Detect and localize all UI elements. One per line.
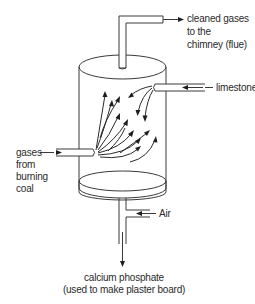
scrubber-diagram: cleaned gases to the chimney (flue) lime…: [0, 0, 255, 304]
product-outlet-pipe: [119, 198, 150, 244]
limestone-spray-arrows: [128, 86, 153, 122]
label-gases-line1: gases: [16, 147, 42, 158]
flue-pipe: [119, 16, 163, 69]
limestone-inlet-pipe: [154, 84, 214, 91]
label-product-line1: calcium phosphate: [84, 272, 165, 283]
air-inlet-arrow: [136, 211, 156, 216]
label-air: Air: [159, 208, 171, 219]
label-gases-line4: coal: [16, 183, 34, 194]
label-limestone: limestone: [216, 82, 255, 93]
outlet-arrow: [163, 17, 184, 22]
label-outlet-line3: chimney (flue): [187, 39, 247, 50]
label-outlet-line1: cleaned gases: [187, 13, 249, 24]
perforated-plate: [79, 171, 166, 198]
label-product-line2: (used to make plaster board): [63, 284, 185, 295]
gas-inlet-pipe: [40, 149, 95, 156]
label-outlet-line2: to the: [187, 26, 211, 37]
label-gases-line2: from: [16, 159, 35, 170]
label-gases-line3: burning: [16, 171, 48, 182]
product-arrow: [120, 232, 125, 267]
